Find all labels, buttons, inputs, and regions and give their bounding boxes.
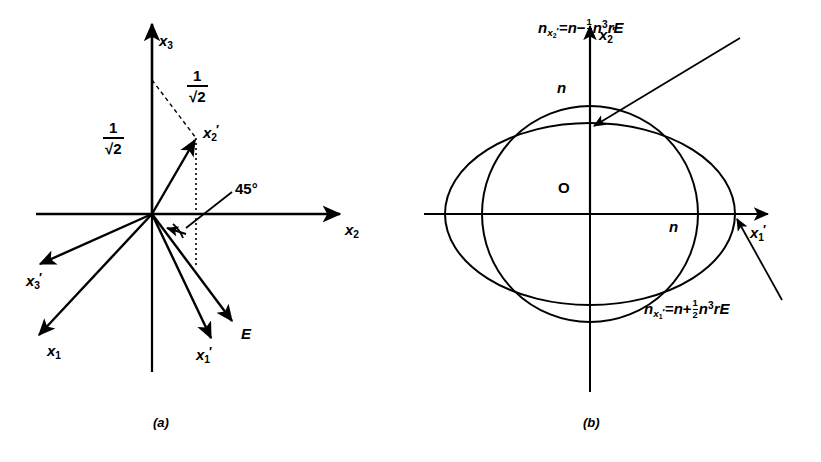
fraction-denominator: √2 [103, 140, 124, 157]
angle-arc-arrow [167, 228, 186, 234]
eq1-equals: = [559, 19, 568, 36]
eq1-lhs-n: n [538, 19, 547, 36]
fraction-1-over-sqrt2-right: 1 √2 [187, 68, 208, 105]
eq2-rhs-n: n [674, 300, 683, 317]
x3-axis-label-sub: 3 [167, 40, 173, 51]
x1-label: x1 [47, 343, 61, 361]
figure-root: x3 x2 x2′ x3′ x1 x1′ E 45° 1 √2 1 [0, 0, 821, 462]
eq1-tail: rE [608, 19, 624, 36]
fraction-numerator: 1 [103, 120, 124, 137]
E-field-vector [152, 214, 232, 321]
fraction-bar [103, 137, 124, 139]
panel-b-index-ellipsoid-diagram: x2′ x1′ n n O nx2′=n−12n3rE nx1′=n+12n3r… [410, 0, 821, 462]
n-x2-prime-equation: nx2′=n−12n3rE [538, 18, 623, 40]
x1-prime-label: x1′ [196, 346, 212, 365]
fraction-denominator: √2 [187, 88, 208, 105]
x1-vector [39, 214, 152, 335]
eq2-lhs-n: n [644, 300, 653, 317]
fraction-numerator: 1 [187, 68, 208, 85]
panel-b-caption: (b) [583, 415, 600, 430]
eq1-rhs-n: n [568, 19, 577, 36]
n-label-vertical: n [557, 80, 566, 95]
panel-a-axes-diagram: x3 x2 x2′ x3′ x1 x1′ E 45° 1 √2 1 [0, 0, 410, 462]
eq2-lhs-subscript: x1′ [653, 308, 665, 319]
x3-prime-label: x3′ [26, 272, 42, 291]
x3-axis-label: x3 [159, 33, 173, 51]
eq1-sign: − [577, 19, 586, 36]
n-label-horizontal: n [669, 219, 678, 234]
eq1-lhs-subscript: x2′ [547, 27, 559, 38]
eq2-tail: rE [714, 300, 730, 317]
angle-label-leader-line [186, 192, 232, 228]
eq2-n-cubed: n [699, 300, 708, 317]
eq2-equals: = [665, 300, 674, 317]
x2-axis-label: x2 [345, 222, 359, 240]
x3-prime-vector [40, 214, 152, 264]
fraction-1-over-sqrt2-left: 1 √2 [103, 120, 124, 157]
eq1-half-fraction: 12 [587, 18, 592, 39]
x2-prime-label: x2′ [203, 124, 219, 143]
angle-45-label: 45° [235, 181, 258, 196]
n-x2-prime-leader-arrow [594, 38, 740, 126]
panel-a-caption: (a) [153, 415, 169, 430]
eq1-n-cubed: n [593, 19, 602, 36]
eq2-sign: + [683, 300, 692, 317]
E-field-label: E [241, 326, 251, 341]
fraction-bar [187, 85, 208, 87]
x2-prime-vector [152, 140, 195, 214]
n-x1-prime-equation: nx1′=n+12n3rE [644, 299, 729, 321]
eq2-half-fraction: 12 [693, 299, 698, 320]
x2-axis-label-sub: 2 [353, 229, 359, 240]
origin-label: O [558, 180, 570, 195]
x1-prime-axis-label: x1′ [750, 224, 766, 243]
